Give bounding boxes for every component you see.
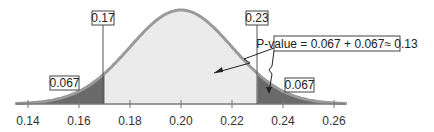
x-tick-label: 0.16 bbox=[67, 114, 91, 128]
x-tick-label: 0.22 bbox=[220, 114, 244, 128]
left-cutoff-label: 0.17 bbox=[91, 11, 115, 25]
x-tick-label: 0.26 bbox=[322, 114, 346, 128]
x-tick-label: 0.20 bbox=[169, 114, 193, 128]
right-cutoff-text: 0.23 bbox=[245, 11, 269, 25]
left-cutoff-text: 0.17 bbox=[91, 11, 115, 25]
pvalue-text: P-value = 0.067 + 0.067≈ 0.13 bbox=[256, 37, 418, 51]
right-tail-label: 0.067 bbox=[284, 78, 314, 92]
x-tick-label: 0.14 bbox=[16, 114, 40, 128]
left-tail-label: 0.067 bbox=[49, 76, 79, 90]
x-tick-label: 0.24 bbox=[271, 114, 295, 128]
normal-distribution-chart: 0.140.160.180.200.220.240.26 0.17 0.23 0… bbox=[0, 0, 434, 132]
x-tick-label: 0.18 bbox=[118, 114, 142, 128]
right-cutoff-label: 0.23 bbox=[245, 11, 269, 25]
left-tail-text: 0.067 bbox=[49, 76, 79, 90]
right-tail-text: 0.067 bbox=[284, 78, 314, 92]
